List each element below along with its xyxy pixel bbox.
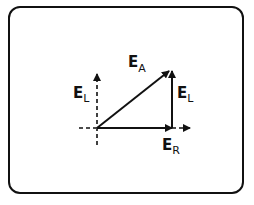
vector-ea <box>97 71 169 128</box>
label-er: ER <box>162 136 180 157</box>
phasor-diagram: EA EL EL ER <box>0 0 254 205</box>
label-el-left: EL <box>73 84 90 105</box>
label-el-right: EL <box>177 84 194 105</box>
label-ea: EA <box>128 53 146 75</box>
